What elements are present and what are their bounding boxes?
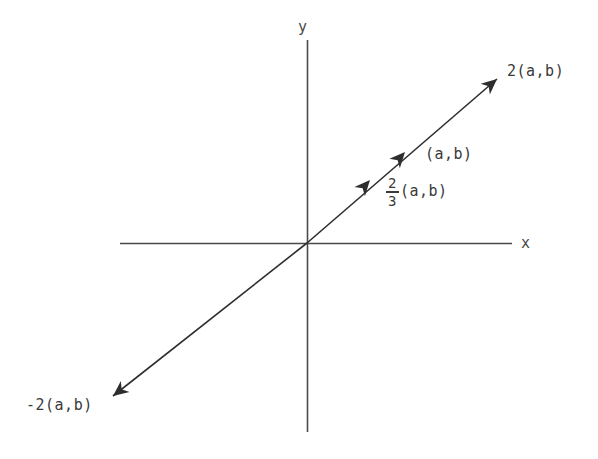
fraction-numerator: 2 (387, 176, 398, 191)
vector-label-negative-2ab: -2(a,b) (26, 398, 93, 413)
arrowhead-two-thirds-ab (345, 180, 370, 208)
fraction-denominator: 3 (387, 193, 398, 208)
vector-label-2ab: 2(a,b) (507, 64, 564, 79)
vector-label-two-thirds-ab: 2 3 (a,b) (386, 176, 448, 208)
vector-figure: y x 2(a,b) (a,b) 2 3 (a,b) -2(a,b) (0, 0, 598, 459)
fraction-point-label: (a,b) (400, 184, 448, 199)
vector-label-ab: (a,b) (425, 147, 473, 162)
x-axis-label: x (521, 236, 531, 251)
fraction-two-thirds: 2 3 (386, 176, 399, 208)
vector-line-negative (113, 243, 307, 396)
y-axis-label: y (298, 20, 308, 35)
